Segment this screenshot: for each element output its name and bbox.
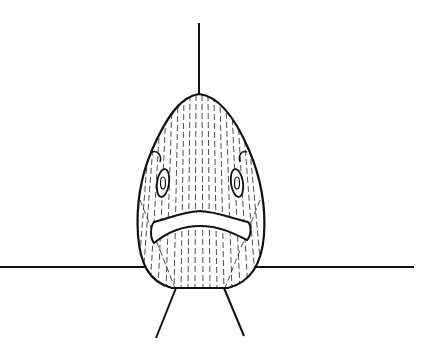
right-fin-line [224,288,244,336]
left-fin-line [156,288,176,338]
fish-illustration [0,0,434,362]
